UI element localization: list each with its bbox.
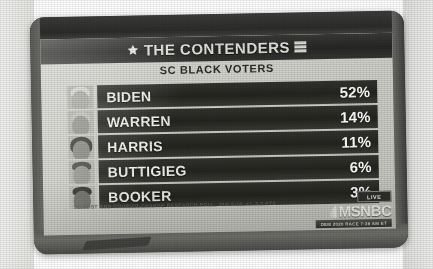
network-bug: LIVE MSNBC DEM 2020 RACE 7:38 AM ET bbox=[287, 191, 392, 229]
candidate-photo-warren bbox=[68, 110, 94, 133]
candidate-percent: 6% bbox=[349, 158, 371, 175]
candidate-photo-column bbox=[67, 85, 95, 208]
live-label: LIVE bbox=[367, 193, 382, 199]
background-wall-left bbox=[0, 0, 34, 269]
flag-stripes-icon bbox=[294, 42, 306, 53]
lower-ticker-bar: DEM 2020 RACE 7:38 AM ET bbox=[316, 219, 392, 228]
candidate-name: HARRIS bbox=[107, 138, 163, 155]
candidate-photo-biden bbox=[67, 85, 93, 108]
television-set: THE CONTENDERS SC BLACK VOTERS BIDEN bbox=[30, 10, 408, 254]
candidate-name: BIDEN bbox=[106, 88, 151, 105]
candidate-photo-harris bbox=[68, 135, 94, 158]
result-row: WARREN 14% bbox=[98, 105, 378, 133]
tv-screen: THE CONTENDERS SC BLACK VOTERS BIDEN bbox=[40, 33, 396, 236]
msnbc-wordmark: MSNBC bbox=[338, 203, 391, 219]
candidate-photo-buttigieg bbox=[69, 160, 95, 183]
candidate-percent: 52% bbox=[339, 83, 370, 101]
candidate-name: BOOKER bbox=[108, 187, 172, 204]
result-row: BUTTIGIEG 6% bbox=[99, 155, 379, 183]
candidate-name: WARREN bbox=[107, 112, 171, 129]
candidate-percent: 14% bbox=[340, 108, 371, 126]
result-row: BIDEN 52% bbox=[97, 80, 377, 108]
result-row: HARRIS 11% bbox=[98, 130, 378, 158]
broadcast-banner: THE CONTENDERS bbox=[40, 33, 392, 65]
results-bar-list: BIDEN 52% WARREN 14% HARRIS 11% BUTTIGIE… bbox=[97, 80, 379, 208]
ticker-text: DEM 2020 RACE 7:38 AM ET bbox=[321, 220, 387, 226]
banner-title: THE CONTENDERS bbox=[144, 39, 290, 59]
candidate-percent: 11% bbox=[341, 133, 371, 151]
peacock-bars-icon bbox=[330, 205, 337, 218]
star-icon bbox=[127, 44, 140, 57]
photo-scene: THE CONTENDERS SC BLACK VOTERS BIDEN bbox=[0, 0, 433, 269]
msnbc-logo: MSNBC bbox=[287, 203, 391, 220]
live-badge: LIVE bbox=[357, 191, 391, 203]
candidate-name: BUTTIGIEG bbox=[108, 162, 187, 180]
poll-graphic: BIDEN 52% WARREN 14% HARRIS 11% BUTTIGIE… bbox=[67, 80, 379, 209]
